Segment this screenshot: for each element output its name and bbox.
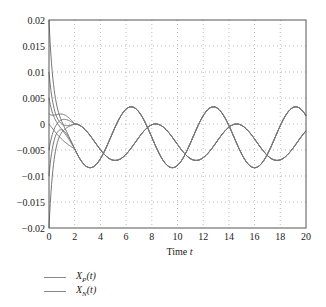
y-tick-label: −0.015 [17,197,45,208]
legend: XP(t) XN(t) [44,270,96,298]
x-tick-label: 8 [149,231,154,242]
legend-line-swatch [44,277,66,278]
series-curve-xp [49,107,306,168]
series-curve-xp [49,107,306,176]
y-tick-label: 0 [40,119,45,130]
legend-item-xp: XP(t) [44,270,96,284]
y-axis-ticks: 0.020.0150.010.0050−0.005−0.01−0.015−0.0… [17,15,45,234]
x-tick-label: 0 [47,231,52,242]
y-tick-label: 0.02 [28,15,46,26]
x-axis-ticks: 02468101214161820 [47,231,312,242]
x-tick-label: 4 [98,231,103,242]
legend-line-swatch [44,291,66,292]
series-curve-xp [49,20,306,168]
x-tick-label: 12 [198,231,208,242]
line-chart: 0.020.0150.010.0050−0.005−0.01−0.015−0.0… [0,0,326,268]
y-tick-label: −0.02 [22,223,45,234]
y-tick-label: 0.005 [23,93,46,104]
y-tick-label: −0.01 [22,171,45,182]
y-tick-label: 0.01 [28,67,46,78]
y-tick-label: −0.005 [17,145,45,156]
legend-item-xn: XN(t) [44,284,96,298]
x-tick-label: 16 [250,231,260,242]
x-tick-label: 10 [173,231,183,242]
legend-label-xp: XP(t) [76,270,96,284]
legend-label-xn: XN(t) [76,284,96,298]
x-tick-label: 20 [301,231,311,242]
y-tick-label: 0.015 [23,41,46,52]
x-axis-label: Time t [166,246,192,257]
x-tick-label: 18 [275,231,285,242]
x-tick-label: 6 [124,231,129,242]
x-tick-label: 14 [224,231,234,242]
x-tick-label: 2 [72,231,77,242]
grid-lines [49,20,306,228]
